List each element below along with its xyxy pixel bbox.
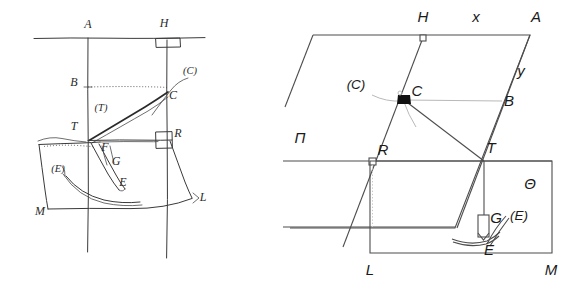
label-right-H: H	[418, 8, 429, 25]
label-left-T: T	[71, 119, 79, 133]
figure-canvas: A H B (C) C (T) T R F G E (E) M L	[0, 0, 583, 289]
label-right-M: M	[545, 261, 558, 278]
label-right-plane-pi: Π	[295, 129, 306, 146]
line-vertical-A	[88, 38, 89, 252]
label-right-E: E	[484, 241, 495, 258]
label-right-x-axis: x	[471, 8, 480, 25]
tick-L-corner	[193, 193, 199, 203]
line-M-L-bottom	[48, 199, 192, 210]
dotted-line-B-C	[88, 87, 167, 88]
left-sketch-geometry	[34, 38, 205, 258]
right-angle-box-H-clean	[420, 35, 426, 41]
weight-G	[478, 215, 489, 237]
label-left-T-variant: (T)	[95, 102, 108, 114]
line-C-B	[404, 100, 502, 101]
label-right-T: T	[486, 139, 497, 156]
label-right-E-variant: (E)	[510, 208, 528, 223]
arc-E-swing-2	[63, 174, 142, 206]
left-hand-drawn-diagram: A H B (C) C (T) T R F G E (E) M L	[0, 0, 583, 289]
right-angle-box-H	[156, 38, 181, 47]
label-right-C: C	[412, 82, 423, 99]
pendulum-arm-cap	[119, 189, 125, 191]
label-right-R: R	[378, 141, 389, 158]
line-R-L	[170, 141, 192, 198]
label-left-E-variant: (E)	[51, 163, 65, 175]
label-right-B: B	[504, 92, 514, 109]
arc-E-swing	[66, 176, 140, 203]
line-M-left-edge	[39, 145, 48, 210]
label-right-L: L	[366, 261, 374, 278]
dotted-fold-near-T	[44, 145, 94, 147]
label-left-H: H	[159, 16, 170, 30]
label-left-M: M	[34, 204, 46, 218]
label-left-G: G	[112, 154, 121, 168]
label-left-C-variant: (C)	[183, 65, 198, 77]
label-right-plane-theta: Θ	[524, 175, 536, 192]
label-left-B: B	[70, 75, 78, 89]
node-dot-C	[397, 95, 411, 104]
label-right-C-variant: (C)	[347, 77, 366, 92]
arc-below-C	[404, 102, 416, 127]
right-diagram-labels: H x A y B (C) C Π R T Θ G (E) E L M	[295, 8, 558, 278]
segment-C-T	[404, 100, 484, 161]
label-left-E: E	[118, 175, 127, 189]
curve-fold-near-T	[38, 138, 86, 142]
label-right-y-axis: y	[516, 62, 526, 79]
label-left-C: C	[169, 88, 178, 102]
plane-pi-left-edge	[285, 35, 313, 107]
label-left-R: R	[173, 126, 182, 140]
label-right-A: A	[530, 8, 541, 25]
label-right-G: G	[490, 209, 502, 226]
line-vertical-H	[167, 40, 168, 258]
label-left-A: A	[83, 17, 92, 31]
label-left-L: L	[199, 190, 207, 204]
label-left-F: F	[100, 140, 109, 154]
